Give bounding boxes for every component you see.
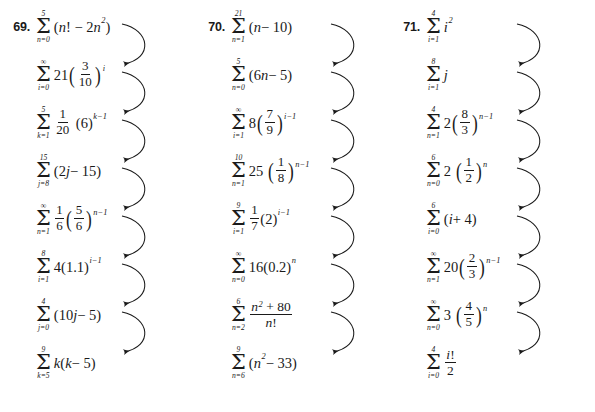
expression-71-8: 4 Σ i=0 i!2 bbox=[426, 346, 457, 380]
exercise-page: 69. 5 Σ n=0 (n! − 2n2) 00. ∞ Σ i=0 21(31… bbox=[0, 0, 595, 412]
sigma-icon: Σ bbox=[36, 161, 51, 180]
expression-69-2: ∞ Σ i=0 21(310)i bbox=[36, 58, 105, 92]
expression-71-7: ∞ Σ n=0 3(45)n bbox=[426, 298, 487, 332]
expression-row: 00. 6 Σ n=0 2(12)n bbox=[390, 148, 595, 194]
summation-symbol: 6 Σ i=0 bbox=[426, 202, 441, 236]
expression-70-3: ∞ Σ i=1 8(79)i−1 bbox=[231, 106, 296, 140]
lower-limit: i=1 bbox=[233, 228, 244, 236]
expression-69-7: 4 Σ j=0 (10j − 5) bbox=[36, 298, 101, 332]
sigma-icon: Σ bbox=[36, 353, 51, 372]
sigma-icon: Σ bbox=[36, 305, 51, 324]
lower-limit: i=1 bbox=[428, 36, 439, 44]
sigma-icon: Σ bbox=[426, 257, 441, 276]
lower-limit: n=0 bbox=[37, 36, 50, 44]
expression-row: 69. 5 Σ n=0 (n! − 2n2) bbox=[0, 4, 198, 50]
sigma-icon: Σ bbox=[36, 209, 51, 228]
summand: 16(56)n−1 bbox=[54, 204, 108, 234]
expression-69-4: 15 Σ j=8 (2j − 15) bbox=[36, 154, 101, 188]
expression-69-3: 5 Σ k=1 120(6)k−1 bbox=[36, 106, 107, 140]
exercise-column-70: 70. 21 Σ n=1 (n − 10) 00. 5 Σ n=0 (6n − … bbox=[195, 0, 393, 412]
summand: (2j − 15) bbox=[54, 164, 101, 179]
sigma-icon: Σ bbox=[426, 65, 441, 84]
summation-symbol: 4 Σ n=1 bbox=[426, 106, 441, 140]
sigma-icon: Σ bbox=[426, 113, 441, 132]
summation-symbol: ∞ Σ i=1 bbox=[231, 106, 246, 140]
summand: k(k − 5) bbox=[54, 356, 96, 371]
expression-70-6: ∞ Σ n=0 16(0.2)n bbox=[231, 250, 296, 284]
expression-71-2: 8 Σ i=1 j bbox=[426, 58, 448, 92]
expression-row: 00. ∞ Σ n=1 16(56)n−1 bbox=[0, 196, 198, 242]
sigma-icon: Σ bbox=[231, 209, 246, 228]
lower-limit: k=5 bbox=[37, 372, 49, 380]
summation-symbol: 15 Σ j=8 bbox=[36, 154, 51, 188]
expression-row: 00. ∞ Σ n=1 20(23)n−1 bbox=[390, 244, 595, 290]
expression-row: 00. 9 Σ k=5 k(k − 5) bbox=[0, 340, 198, 386]
expression-row: 00. ∞ Σ n=0 16(0.2)n bbox=[195, 244, 393, 290]
summand: 16(0.2)n bbox=[249, 260, 296, 275]
sigma-icon: Σ bbox=[36, 257, 51, 276]
sigma-icon: Σ bbox=[426, 353, 441, 372]
expression-70-8: 9 Σ n=6 (n2 − 33) bbox=[231, 346, 297, 380]
expression-row: 00. 8 Σ i=1 4(1.1)i−1 bbox=[0, 244, 198, 290]
lower-limit: i=1 bbox=[428, 84, 439, 92]
summand: 120(6)k−1 bbox=[54, 108, 107, 138]
summation-symbol: 21 Σ n=1 bbox=[231, 10, 246, 44]
summation-symbol: 10 Σ n=1 bbox=[231, 154, 246, 188]
summand: 17(2)i−1 bbox=[249, 204, 290, 234]
expression-row: 00. 5 Σ n=0 (6n − 5) bbox=[195, 52, 393, 98]
lower-limit: n=1 bbox=[427, 132, 440, 140]
exercise-number-71: 71. bbox=[390, 20, 426, 34]
summation-symbol: 9 Σ i=1 bbox=[231, 202, 246, 236]
sigma-icon: Σ bbox=[231, 257, 246, 276]
expression-70-7: 6 Σ n=2 n2 + 80n! bbox=[231, 298, 293, 332]
lower-limit: i=1 bbox=[233, 132, 244, 140]
summand: 20(23)n−1 bbox=[444, 252, 501, 282]
lower-limit: i=0 bbox=[428, 372, 439, 380]
summation-symbol: 9 Σ n=6 bbox=[231, 346, 246, 380]
lower-limit: i=0 bbox=[38, 84, 49, 92]
summand: (n2 − 33) bbox=[249, 356, 297, 371]
summation-symbol: ∞ Σ i=0 bbox=[36, 58, 51, 92]
summand: j bbox=[444, 68, 448, 83]
expression-71-5: 6 Σ i=0 (i + 4) bbox=[426, 202, 477, 236]
summation-symbol: 5 Σ k=1 bbox=[36, 106, 51, 140]
lower-limit: n=0 bbox=[427, 324, 440, 332]
expression-row: 71. 4 Σ i=1 i2 bbox=[390, 4, 595, 50]
summand: i!2 bbox=[444, 347, 457, 378]
expression-row: 00. 4 Σ i=0 i!2 bbox=[390, 340, 595, 386]
summand: 25(18)n−1 bbox=[249, 156, 310, 186]
expression-row: 00. 9 Σ n=6 (n2 − 33) bbox=[195, 340, 393, 386]
summand: 21(310)i bbox=[54, 60, 105, 90]
summation-symbol: 9 Σ k=5 bbox=[36, 346, 51, 380]
lower-limit: n=1 bbox=[232, 180, 245, 188]
summand: (6n − 5) bbox=[249, 68, 292, 83]
expression-71-6: ∞ Σ n=1 20(23)n−1 bbox=[426, 250, 500, 284]
lower-limit: j=0 bbox=[38, 324, 49, 332]
sigma-icon: Σ bbox=[231, 65, 246, 84]
expression-row: 00. 10 Σ n=1 25(18)n−1 bbox=[195, 148, 393, 194]
summand: n2 + 80n! bbox=[249, 299, 293, 330]
expression-row: 00. 15 Σ j=8 (2j − 15) bbox=[0, 148, 198, 194]
sigma-icon: Σ bbox=[36, 17, 51, 36]
expression-row: 00. 9 Σ i=1 17(2)i−1 bbox=[195, 196, 393, 242]
expression-71-1: 4 Σ i=1 i2 bbox=[426, 10, 453, 44]
lower-limit: n=6 bbox=[232, 372, 245, 380]
expression-70-5: 9 Σ i=1 17(2)i−1 bbox=[231, 202, 290, 236]
sigma-icon: Σ bbox=[426, 17, 441, 36]
summation-symbol: ∞ Σ n=1 bbox=[36, 202, 51, 236]
sigma-icon: Σ bbox=[231, 305, 246, 324]
summation-symbol: ∞ Σ n=0 bbox=[426, 298, 441, 332]
expression-70-2: 5 Σ n=0 (6n − 5) bbox=[231, 58, 292, 92]
summation-symbol: 5 Σ n=0 bbox=[231, 58, 246, 92]
expression-row: 00. 5 Σ k=1 120(6)k−1 bbox=[0, 100, 198, 146]
expression-row: 70. 21 Σ n=1 (n − 10) bbox=[195, 4, 393, 50]
summation-symbol: 4 Σ j=0 bbox=[36, 298, 51, 332]
expression-69-1: 5 Σ n=0 (n! − 2n2) bbox=[36, 10, 110, 44]
lower-limit: n=0 bbox=[427, 180, 440, 188]
summand: (n − 10) bbox=[249, 20, 292, 35]
summand: 2(83)n−1 bbox=[444, 108, 493, 138]
lower-limit: n=1 bbox=[232, 36, 245, 44]
sigma-icon: Σ bbox=[231, 161, 246, 180]
expression-row: 00. ∞ Σ i=1 8(79)i−1 bbox=[195, 100, 393, 146]
expression-row: 00. 6 Σ i=0 (i + 4) bbox=[390, 196, 595, 242]
